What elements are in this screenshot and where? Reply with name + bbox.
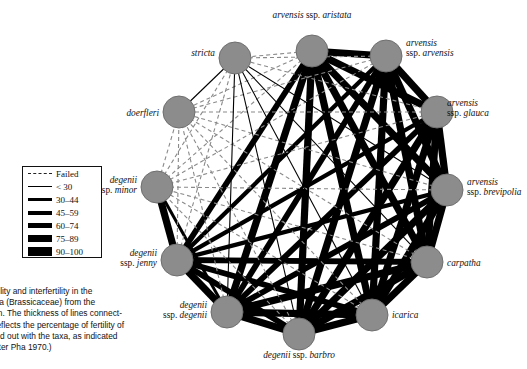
node-barbro[interactable] — [283, 318, 315, 350]
node-label-aristata: arvensis ssp. aristata — [273, 10, 352, 20]
node-label-glauca: arvensisssp. glauca — [447, 98, 489, 119]
legend-swatch-icon — [27, 247, 52, 256]
node-label-carpatha: carpatha — [447, 258, 481, 268]
caption-line-4: crosses carried out with the taxa, as in… — [0, 331, 123, 342]
node-degenii[interactable] — [211, 296, 243, 328]
legend-label: Failed — [52, 169, 79, 179]
legend-swatch-icon — [27, 173, 52, 174]
node-icarica[interactable] — [356, 299, 388, 331]
node-brevipolia[interactable] — [431, 174, 463, 206]
node-jenny[interactable] — [161, 244, 193, 276]
legend-item-6: 90–100 — [23, 245, 101, 258]
caption-line-2: Aegean region. The thickness of lines co… — [0, 308, 123, 319]
legend-swatch-icon — [27, 223, 52, 229]
legend-item-5: 75–89 — [23, 232, 101, 245]
legend-item-2: 30–44 — [23, 193, 101, 206]
node-minor[interactable] — [141, 171, 173, 203]
figure-caption: Figure 3 Fertility and interfertility in… — [0, 286, 123, 353]
legend-label: < 30 — [52, 182, 72, 192]
legend-box: Failed< 3030–4445–5960–7475–8990–100 — [22, 166, 102, 258]
legend-swatch-icon — [27, 235, 52, 242]
legend-item-0: Failed — [23, 167, 101, 180]
node-doerfleri[interactable] — [163, 96, 195, 128]
legend-item-3: 45–59 — [23, 206, 101, 219]
node-arvensis[interactable] — [370, 40, 402, 72]
node-label-jenny: degeniissp. jenny — [120, 248, 157, 269]
legend-label: 75–89 — [52, 234, 79, 244]
node-label-minor: degeniissp. minor — [98, 175, 137, 196]
legend-swatch-icon — [27, 186, 52, 187]
legend-swatch-icon — [27, 198, 52, 201]
legend-label: 30–44 — [52, 195, 79, 205]
legend-item-4: 60–74 — [23, 219, 101, 232]
node-aristata[interactable] — [296, 35, 328, 67]
caption-line-0: Figure 3 Fertility and interfertility in… — [0, 286, 123, 297]
legend-item-1: < 30 — [23, 180, 101, 193]
caption-line-3: ing the taxa reflects the percentage of … — [0, 320, 123, 331]
edge-jenny-doerfleri — [177, 112, 179, 260]
caption-line-1: genus Aubrieta (Brassicaceae) from the — [0, 297, 123, 308]
edge-icarica-degenii — [227, 312, 372, 315]
legend-swatch-icon — [27, 211, 52, 215]
legend-label: 45–59 — [52, 208, 79, 218]
node-label-icarica: icarica — [392, 310, 418, 320]
node-label-degenii: degeniissp. degenii — [163, 300, 207, 321]
interfertility-network-figure: arvensis ssp. aristataarvensisssp. arven… — [0, 0, 527, 369]
caption-line-5: in the key. (After Pha 1970.) — [0, 342, 123, 353]
node-label-brevipolia: arvensisssp. brevipolia — [467, 177, 521, 198]
node-carpatha[interactable] — [411, 246, 443, 278]
node-label-stricta: stricta — [191, 48, 215, 58]
legend-label: 90–100 — [52, 247, 83, 257]
node-stricta[interactable] — [219, 42, 251, 74]
node-label-doerfleri: doerfleri — [126, 108, 159, 118]
node-label-barbro: degenii ssp. barbro — [263, 350, 335, 360]
node-label-arvensis: arvensisssp. arvensis — [406, 38, 454, 59]
edge-layer — [157, 51, 447, 334]
legend-label: 60–74 — [52, 221, 79, 231]
